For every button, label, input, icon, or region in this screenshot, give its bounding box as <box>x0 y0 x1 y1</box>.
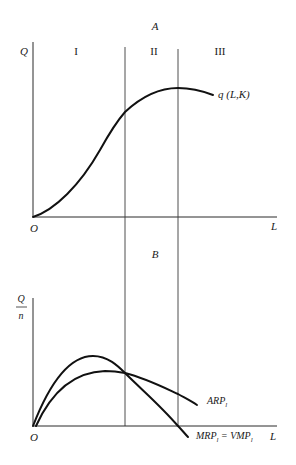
panel-a-x-axis-label: L <box>270 220 277 232</box>
panel-b-origin-label: O <box>30 431 38 443</box>
arp-label: ARPl <box>206 395 227 409</box>
panel-a-title: A <box>151 20 159 32</box>
total-product-curve <box>33 88 213 217</box>
mrp-vmp-label: MRPl=VMPl <box>195 430 253 444</box>
stage-2-label: II <box>150 45 158 57</box>
panel-b-x-axis-label: L <box>269 430 276 442</box>
total-product-label: q (L,K) <box>218 88 250 101</box>
production-stages-diagram: A Q I II III q (L,K) O L B Q n ARPl MRPl… <box>0 0 296 465</box>
panel-b-title: B <box>152 248 159 260</box>
stage-1-label: I <box>74 45 78 57</box>
panel-a-origin-label: O <box>30 222 38 234</box>
stage-3-label: III <box>215 45 226 57</box>
arp-curve <box>36 371 197 426</box>
panel-b-y-axis-numerator: Q <box>17 293 25 304</box>
mrp-curve <box>33 356 188 437</box>
panel-b-y-axis-denominator: n <box>19 310 24 321</box>
panel-a-y-axis-label: Q <box>20 45 28 57</box>
